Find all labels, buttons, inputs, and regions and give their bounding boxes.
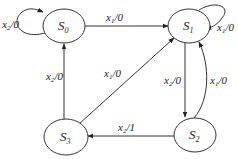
edge-s3-s1 xyxy=(79,38,174,124)
edge-s0-s0 xyxy=(17,9,45,35)
state-s0: S0 xyxy=(43,9,85,43)
state-s1: S1 xyxy=(168,9,210,43)
label-s1-s2: x2/0 xyxy=(163,74,181,88)
label-s2-s1: x1/0 xyxy=(209,74,227,88)
label-s1-s1: x1/0 xyxy=(216,21,234,35)
label-s3-s0: x2/0 xyxy=(45,70,63,84)
label-s0-s0: x2/0 xyxy=(1,18,19,32)
state-s3: S3 xyxy=(44,119,88,155)
label-s3-s1: x1/0 xyxy=(103,67,121,81)
state-diagram: S0 S1 S2 S3 x2/0 x1/0 x1/0 x2/0 x1/0 x2/… xyxy=(0,0,238,159)
label-s0-s1: x1/0 xyxy=(105,11,123,25)
label-s2-s3: x2/1 xyxy=(117,121,135,135)
edge-s2-s1 xyxy=(194,42,207,118)
state-s2: S2 xyxy=(174,118,216,152)
